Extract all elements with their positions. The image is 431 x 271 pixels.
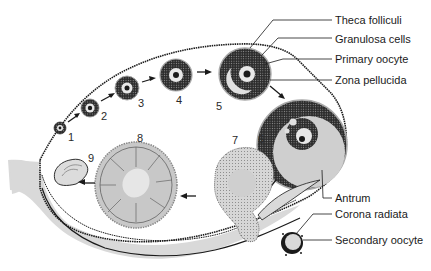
- follicle-stage-5: 5: [216, 48, 271, 112]
- stage-number-3: 3: [138, 97, 144, 109]
- stage-number-6: 6: [258, 133, 264, 145]
- follicle-stage-1: 1: [54, 122, 74, 143]
- label-zona-pellucida: Zona pellucida: [335, 74, 407, 86]
- label-theca-folliculi: Theca folliculi: [335, 14, 402, 26]
- label-granulosa-cells: Granulosa cells: [335, 33, 411, 45]
- label-antrum: Antrum: [335, 192, 370, 204]
- follicle-stage-3: 3: [115, 76, 144, 109]
- arrow-5-6: [270, 86, 282, 96]
- arrow-head-icon: [180, 193, 187, 199]
- stage-number-2: 2: [101, 110, 107, 122]
- label-primary-oocyte: Primary oocyte: [335, 53, 408, 65]
- stage-number-4: 4: [176, 94, 182, 106]
- follicle-stage-2: 2: [81, 99, 107, 122]
- stage-number-8: 8: [137, 132, 143, 144]
- arrow-head-icon: [205, 69, 212, 75]
- secondary-oocyte-released: [281, 232, 303, 256]
- label-secondary-oocyte: Secondary oocyte: [335, 234, 423, 246]
- label-corona-radiata: Corona radiata: [335, 208, 409, 220]
- corpus-luteum-stage-8: 8: [95, 132, 177, 228]
- corpus-albicans-stage-9: 9: [54, 152, 94, 185]
- stage-number-7: 7: [232, 134, 238, 146]
- stage-number-9: 9: [88, 152, 94, 164]
- follicle-stage-4: 4: [160, 59, 192, 106]
- stage-number-1: 1: [68, 131, 74, 143]
- ovary-diagram: 1 2 3 4 5: [0, 0, 431, 271]
- stage-number-5: 5: [216, 100, 222, 112]
- arrow-head-icon: [149, 76, 156, 81]
